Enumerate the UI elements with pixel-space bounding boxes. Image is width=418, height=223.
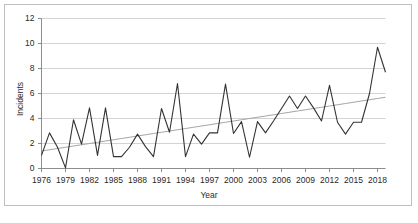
y-tick-label: 8	[13, 64, 35, 73]
gridlines	[42, 19, 386, 144]
x-tick-label: 2006	[269, 176, 295, 185]
x-axis-title: Year	[0, 191, 418, 200]
chart-figure: 024681012 197619791982198519881991199419…	[0, 0, 418, 223]
y-tick-label: 12	[13, 14, 35, 23]
x-tick-label: 2009	[293, 176, 319, 185]
x-tick-label: 1994	[173, 176, 199, 185]
y-axis-title: Incidents	[16, 81, 25, 115]
x-tick-label: 2015	[341, 176, 367, 185]
x-tick-label: 1991	[149, 176, 175, 185]
y-axis-ticks	[38, 19, 42, 169]
x-tick-label: 1976	[29, 176, 55, 185]
y-tick-label: 10	[13, 39, 35, 48]
x-tick-label: 1988	[125, 176, 151, 185]
x-tick-label: 2012	[317, 176, 343, 185]
x-axis-ticks	[42, 169, 378, 173]
y-tick-label: 2	[13, 139, 35, 148]
x-tick-label: 1997	[197, 176, 223, 185]
x-tick-label: 1982	[77, 176, 103, 185]
x-tick-label: 2018	[365, 176, 391, 185]
x-tick-label: 2003	[245, 176, 271, 185]
x-tick-label: 2000	[221, 176, 247, 185]
x-tick-label: 1979	[53, 176, 79, 185]
x-tick-label: 1985	[101, 176, 127, 185]
data-series-lines	[42, 47, 386, 168]
series-line-incidents	[42, 47, 386, 168]
y-tick-label: 0	[13, 164, 35, 173]
